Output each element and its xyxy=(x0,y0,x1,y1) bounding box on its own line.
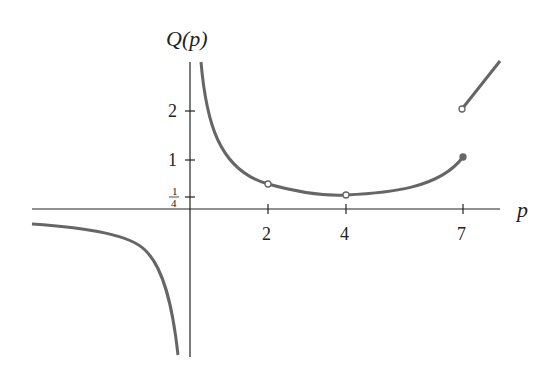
closed-point-7 xyxy=(460,154,466,160)
open-point-4 xyxy=(343,192,349,198)
left-branch-curve xyxy=(32,224,178,355)
y-tick-label-2: 2 xyxy=(168,101,177,121)
x-tick-label-7: 7 xyxy=(457,224,466,244)
x-axis-label: p xyxy=(515,197,528,222)
chart-canvas: Q(p) p 2 4 7 2 1 1 4 xyxy=(0,0,558,375)
y-tick-label-1: 1 xyxy=(168,150,177,170)
right-branch-line xyxy=(462,61,500,109)
y-axis-label: Q(p) xyxy=(166,26,208,51)
y-tick-label-quarter-num: 1 xyxy=(172,185,178,197)
open-point-7 xyxy=(459,106,465,112)
x-tick-label-4: 4 xyxy=(340,224,349,244)
y-tick-label-quarter-den: 4 xyxy=(171,197,177,209)
middle-branch-curve xyxy=(201,62,463,195)
open-point-2 xyxy=(265,181,271,187)
x-tick-label-2: 2 xyxy=(262,224,271,244)
